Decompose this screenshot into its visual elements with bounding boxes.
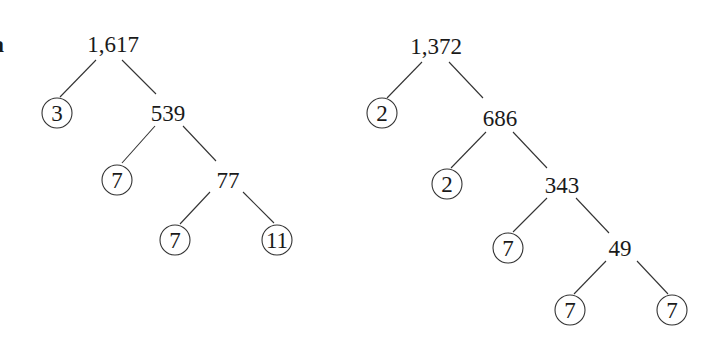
tree2-prime: 2 [376, 101, 388, 126]
factor-tree-1617: 1,617 3 539 7 77 7 11 [42, 32, 292, 255]
tree1-prime: 7 [111, 168, 123, 193]
branch [387, 62, 422, 98]
branch [449, 62, 483, 98]
branch [243, 192, 274, 223]
branch [122, 60, 156, 94]
branch [122, 126, 155, 163]
factor-trees-diagram: a 1,617 3 539 7 77 7 11 1,372 2 686 2 34… [0, 0, 708, 347]
branch [576, 198, 609, 233]
branch [183, 126, 216, 161]
tree1-root: 1,617 [87, 32, 139, 57]
tree2-prime: 7 [564, 298, 576, 323]
branch [637, 261, 668, 294]
tree2-prime: 2 [441, 172, 453, 197]
tree2-composite: 343 [545, 173, 580, 198]
tree2-prime: 7 [502, 236, 514, 261]
branch [513, 132, 547, 168]
tree2-root: 1,372 [410, 34, 462, 59]
tree1-prime: 7 [169, 228, 181, 253]
tree1-prime: 3 [51, 101, 63, 126]
problem-label: a [0, 31, 4, 57]
branch [574, 261, 606, 294]
tree1-prime: 11 [266, 228, 288, 253]
factor-tree-1372: 1,372 2 686 2 343 7 49 7 7 [367, 34, 687, 325]
tree1-composite: 77 [217, 168, 240, 193]
tree2-composite: 686 [483, 106, 518, 131]
tree1-composite: 539 [151, 101, 186, 126]
branch [451, 132, 486, 168]
branch [60, 60, 96, 97]
tree2-prime: 7 [666, 298, 678, 323]
tree2-composite: 49 [609, 236, 632, 261]
branch [180, 192, 210, 224]
branch [513, 198, 547, 232]
